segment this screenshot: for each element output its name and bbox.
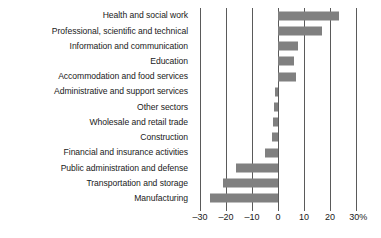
- category-label: Professional, scientific and technical: [0, 23, 192, 38]
- bar-row: [200, 160, 356, 175]
- bar: [273, 118, 278, 127]
- tick-label: –30: [192, 213, 207, 222]
- bar-row: [200, 99, 356, 114]
- bar: [236, 163, 278, 172]
- gridline: [356, 8, 357, 206]
- tick-label: 0: [275, 213, 280, 222]
- bar: [272, 133, 279, 142]
- category-label: Other sectors: [0, 99, 192, 114]
- bar: [274, 103, 278, 112]
- category-label: Health and social work: [0, 8, 192, 23]
- category-axis-labels: Health and social workProfessional, scie…: [0, 8, 192, 206]
- category-label: Information and communication: [0, 38, 192, 53]
- bar-row: [200, 38, 356, 53]
- bar: [275, 87, 278, 96]
- bar-row: [200, 130, 356, 145]
- category-label: Financial and insurance activities: [0, 145, 192, 160]
- bar: [278, 42, 298, 51]
- bar-row: [200, 145, 356, 160]
- tick-mark: [200, 206, 201, 211]
- tick-mark: [356, 206, 357, 211]
- plot-area: [200, 8, 356, 206]
- bar-row: [200, 176, 356, 191]
- bar: [278, 11, 339, 20]
- bar-row: [200, 69, 356, 84]
- category-label: Construction: [0, 130, 192, 145]
- bar-row: [200, 191, 356, 206]
- bar: [278, 57, 294, 66]
- tick-label: 20: [325, 213, 335, 222]
- category-label: Accommodation and food services: [0, 69, 192, 84]
- tick-mark: [252, 206, 253, 211]
- x-axis-tick-labels: –30–20–100102030%: [200, 213, 356, 229]
- tick-label: –20: [218, 213, 233, 222]
- category-label: Education: [0, 54, 192, 69]
- tick-label: –10: [244, 213, 259, 222]
- bar: [265, 148, 278, 157]
- tick-mark: [304, 206, 305, 211]
- category-label: Manufacturing: [0, 191, 192, 206]
- bar-row: [200, 84, 356, 99]
- tick-mark: [330, 206, 331, 211]
- bar-series: [200, 8, 356, 206]
- category-label: Public administration and defense: [0, 160, 192, 175]
- category-label: Transportation and storage: [0, 176, 192, 191]
- tick-label: 30%: [349, 213, 367, 222]
- bar: [223, 179, 278, 188]
- tick-mark: [278, 206, 279, 211]
- category-label: Administrative and support services: [0, 84, 192, 99]
- bar: [278, 72, 296, 81]
- tick-mark: [226, 206, 227, 211]
- bar-row: [200, 23, 356, 38]
- bar: [210, 194, 278, 203]
- horizontal-bar-chart: Health and social workProfessional, scie…: [0, 0, 381, 238]
- bar-row: [200, 115, 356, 130]
- bar-row: [200, 8, 356, 23]
- category-label: Wholesale and retail trade: [0, 115, 192, 130]
- tick-label: 10: [299, 213, 309, 222]
- bar-row: [200, 54, 356, 69]
- bar: [278, 26, 322, 35]
